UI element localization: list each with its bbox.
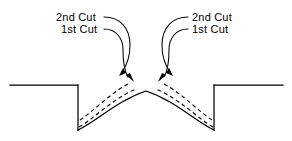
cutting-pass-diagram: 2nd Cut 1st Cut 2nd Cut 1st Cut xyxy=(0,0,292,141)
cut-profiles-dashed xyxy=(79,83,213,127)
right-first-cut-label: 1st Cut xyxy=(192,23,228,35)
right-second-cut-label: 2nd Cut xyxy=(192,11,232,23)
left-second-cut-label: 2nd Cut xyxy=(56,11,96,23)
left-second-cut-leader xyxy=(104,17,130,72)
labels-group: 2nd Cut 1st Cut 2nd Cut 1st Cut xyxy=(56,11,232,35)
right-leaders xyxy=(158,17,188,82)
right-first-cut-leader xyxy=(164,29,188,77)
diagram-canvas: 2nd Cut 1st Cut 2nd Cut 1st Cut xyxy=(0,0,292,141)
workpiece-outline xyxy=(10,85,283,130)
center-arch-profile xyxy=(78,91,214,130)
left-leaders xyxy=(104,17,134,82)
left-first-cut-profile xyxy=(79,89,136,127)
right-second-cut-leader xyxy=(162,17,188,72)
left-first-cut-leader xyxy=(104,29,128,77)
right-first-cut-profile xyxy=(156,89,213,127)
left-first-cut-label: 1st Cut xyxy=(61,23,97,35)
